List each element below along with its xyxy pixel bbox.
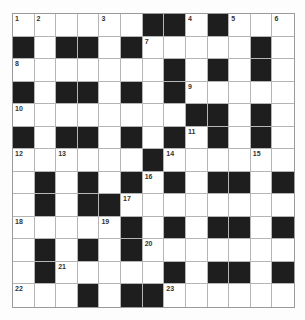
grid-cell[interactable] bbox=[208, 149, 230, 172]
grid-cell[interactable] bbox=[78, 104, 100, 127]
grid-cell[interactable]: 23 bbox=[164, 284, 186, 307]
grid-cell[interactable] bbox=[229, 149, 251, 172]
grid-cell[interactable] bbox=[272, 104, 294, 127]
grid-cell[interactable]: 10 bbox=[13, 104, 35, 127]
grid-cell[interactable] bbox=[13, 239, 35, 262]
grid-cell[interactable] bbox=[99, 149, 121, 172]
grid-cell[interactable] bbox=[186, 172, 208, 195]
grid-cell[interactable] bbox=[251, 172, 273, 195]
grid-cell[interactable] bbox=[229, 239, 251, 262]
grid-cell[interactable] bbox=[208, 239, 230, 262]
grid-cell[interactable] bbox=[164, 194, 186, 217]
grid-cell[interactable] bbox=[56, 194, 78, 217]
grid-cell[interactable] bbox=[78, 217, 100, 240]
grid-cell[interactable] bbox=[229, 59, 251, 82]
grid-cell[interactable] bbox=[186, 37, 208, 60]
grid-cell[interactable] bbox=[99, 239, 121, 262]
grid-cell[interactable]: 8 bbox=[13, 59, 35, 82]
grid-cell[interactable] bbox=[35, 217, 57, 240]
grid-cell[interactable] bbox=[186, 262, 208, 285]
grid-cell[interactable]: 3 bbox=[99, 14, 121, 37]
grid-cell[interactable] bbox=[35, 82, 57, 105]
grid-cell[interactable] bbox=[99, 37, 121, 60]
grid-cell[interactable] bbox=[121, 59, 143, 82]
grid-cell[interactable]: 6 bbox=[272, 14, 294, 37]
grid-cell[interactable] bbox=[78, 14, 100, 37]
grid-cell[interactable] bbox=[208, 37, 230, 60]
grid-cell[interactable]: 20 bbox=[143, 239, 165, 262]
grid-cell[interactable]: 12 bbox=[13, 149, 35, 172]
grid-cell[interactable] bbox=[251, 14, 273, 37]
grid-cell[interactable]: 13 bbox=[56, 149, 78, 172]
grid-cell[interactable] bbox=[56, 104, 78, 127]
grid-cell[interactable]: 7 bbox=[143, 37, 165, 60]
grid-cell[interactable] bbox=[164, 104, 186, 127]
grid-cell[interactable] bbox=[229, 82, 251, 105]
grid-cell[interactable] bbox=[99, 262, 121, 285]
grid-cell[interactable] bbox=[272, 239, 294, 262]
grid-cell[interactable] bbox=[99, 284, 121, 307]
grid-cell[interactable] bbox=[35, 37, 57, 60]
grid-cell[interactable] bbox=[229, 37, 251, 60]
grid-cell[interactable] bbox=[143, 104, 165, 127]
grid-cell[interactable] bbox=[56, 239, 78, 262]
grid-cell[interactable] bbox=[13, 262, 35, 285]
grid-cell[interactable] bbox=[251, 194, 273, 217]
grid-cell[interactable] bbox=[272, 59, 294, 82]
grid-cell[interactable] bbox=[78, 59, 100, 82]
grid-cell[interactable] bbox=[56, 172, 78, 195]
grid-cell[interactable] bbox=[143, 217, 165, 240]
grid-cell[interactable]: 21 bbox=[56, 262, 78, 285]
grid-cell[interactable] bbox=[121, 149, 143, 172]
grid-cell[interactable]: 16 bbox=[143, 172, 165, 195]
grid-cell[interactable]: 1 bbox=[13, 14, 35, 37]
grid-cell[interactable] bbox=[229, 194, 251, 217]
grid-cell[interactable] bbox=[143, 262, 165, 285]
grid-cell[interactable] bbox=[272, 284, 294, 307]
grid-cell[interactable]: 9 bbox=[186, 82, 208, 105]
grid-cell[interactable] bbox=[251, 217, 273, 240]
grid-cell[interactable] bbox=[143, 82, 165, 105]
grid-cell[interactable] bbox=[143, 59, 165, 82]
grid-cell[interactable] bbox=[164, 37, 186, 60]
grid-cell[interactable]: 22 bbox=[13, 284, 35, 307]
grid-cell[interactable] bbox=[143, 127, 165, 150]
grid-cell[interactable] bbox=[251, 82, 273, 105]
grid-cell[interactable] bbox=[186, 194, 208, 217]
grid-cell[interactable] bbox=[78, 262, 100, 285]
grid-cell[interactable] bbox=[35, 104, 57, 127]
grid-cell[interactable]: 19 bbox=[99, 217, 121, 240]
grid-cell[interactable]: 11 bbox=[186, 127, 208, 150]
grid-cell[interactable] bbox=[272, 127, 294, 150]
grid-cell[interactable] bbox=[272, 37, 294, 60]
grid-cell[interactable] bbox=[35, 59, 57, 82]
grid-cell[interactable] bbox=[99, 104, 121, 127]
grid-cell[interactable]: 17 bbox=[121, 194, 143, 217]
grid-cell[interactable] bbox=[143, 194, 165, 217]
grid-cell[interactable]: 4 bbox=[186, 14, 208, 37]
grid-cell[interactable] bbox=[35, 149, 57, 172]
grid-cell[interactable] bbox=[186, 217, 208, 240]
grid-cell[interactable] bbox=[99, 127, 121, 150]
grid-cell[interactable] bbox=[56, 59, 78, 82]
grid-cell[interactable] bbox=[208, 82, 230, 105]
grid-cell[interactable] bbox=[13, 172, 35, 195]
grid-cell[interactable] bbox=[121, 104, 143, 127]
grid-cell[interactable] bbox=[272, 194, 294, 217]
grid-cell[interactable] bbox=[251, 284, 273, 307]
grid-cell[interactable]: 15 bbox=[251, 149, 273, 172]
grid-cell[interactable] bbox=[56, 217, 78, 240]
grid-cell[interactable] bbox=[56, 14, 78, 37]
grid-cell[interactable] bbox=[186, 59, 208, 82]
grid-cell[interactable] bbox=[186, 284, 208, 307]
grid-cell[interactable] bbox=[35, 127, 57, 150]
grid-cell[interactable] bbox=[208, 284, 230, 307]
grid-cell[interactable]: 14 bbox=[164, 149, 186, 172]
grid-cell[interactable] bbox=[78, 149, 100, 172]
grid-cell[interactable] bbox=[13, 194, 35, 217]
grid-cell[interactable] bbox=[229, 284, 251, 307]
grid-cell[interactable] bbox=[56, 284, 78, 307]
grid-cell[interactable] bbox=[121, 14, 143, 37]
grid-cell[interactable] bbox=[229, 104, 251, 127]
grid-cell[interactable] bbox=[99, 59, 121, 82]
